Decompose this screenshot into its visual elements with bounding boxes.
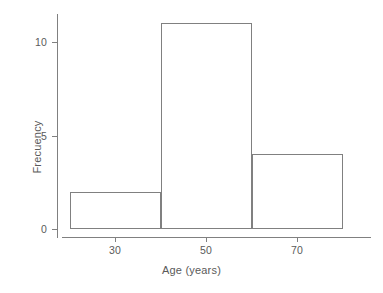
histogram-bar — [161, 23, 252, 229]
x-tick-mark-30 — [115, 237, 116, 242]
y-tick-label-0: 0 — [41, 223, 47, 235]
x-tick-label-50: 50 — [200, 244, 212, 256]
x-axis-title: Age (years) — [0, 264, 383, 276]
x-tick-label-30: 30 — [109, 244, 121, 256]
x-axis-line — [62, 237, 371, 238]
histogram-figure: 0 5 10 30 50 70 Frecuency Age (years) — [0, 0, 383, 293]
y-tick-mark-10 — [52, 42, 57, 43]
y-tick-mark-5 — [52, 136, 57, 137]
x-tick-mark-70 — [297, 237, 298, 242]
y-axis-title: Frecuency — [31, 120, 43, 173]
histogram-bar — [70, 192, 161, 229]
plot-area: 0 5 10 30 50 70 — [0, 0, 383, 293]
histogram-bar — [252, 154, 343, 229]
x-tick-label-70: 70 — [291, 244, 303, 256]
y-tick-label-10: 10 — [35, 36, 47, 48]
y-tick-mark-0 — [52, 229, 57, 230]
y-axis-line — [57, 14, 58, 238]
x-tick-mark-50 — [206, 237, 207, 242]
